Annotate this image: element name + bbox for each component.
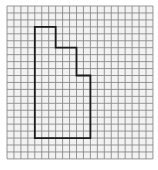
grid-figure <box>0 0 158 170</box>
grid-lines <box>7 6 153 159</box>
